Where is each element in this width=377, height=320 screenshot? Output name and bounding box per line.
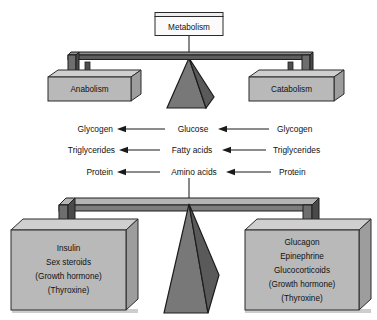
flow-left-arrow-head-2 [117, 169, 126, 175]
metabolism-box-top-strip [155, 13, 223, 17]
flow-left-label-0: Glycogen [78, 124, 114, 134]
catabolism-box: Catabolism [249, 70, 344, 101]
flow-left-arrow-head-1 [119, 147, 128, 153]
flow-right-arrow-head-2 [226, 169, 235, 175]
left-hormone-box: Insulin Sex steroids (Growth hormone) (T… [11, 219, 138, 310]
catabolism-box-top [249, 70, 344, 77]
flow-right-arrow-head-1 [222, 147, 231, 153]
right-hormone-line-4: (Thyroxine) [281, 294, 323, 303]
flow-left-label-2: Protein [86, 167, 113, 177]
left-hormone-line-1: Sex steroids [46, 258, 91, 267]
left-hormone-line-0: Insulin [57, 244, 81, 253]
flow-left-arrow-head-0 [117, 126, 126, 132]
right-hormone-box: Glucagon Epinephrine Glucocorticoids (Gr… [245, 219, 371, 310]
top-fulcrum-pyramid [167, 58, 214, 108]
bottom-beam-front-face [59, 205, 312, 211]
metabolism-balance-diagram: Metabolism [0, 0, 377, 320]
flow-row-glucose: Glycogen Glucose Glycogen [78, 124, 313, 134]
left-hormone-line-3: (Thyroxine) [48, 286, 90, 295]
flow-center-label-0: Glucose [178, 124, 209, 134]
metabolism-box: Metabolism [155, 13, 223, 36]
right-hormone-line-0: Glucagon [284, 238, 319, 247]
right-hormone-line-3: (Growth hormone) [269, 280, 336, 289]
top-beam-front-face [68, 55, 310, 60]
left-hormone-box-side [126, 219, 138, 310]
flow-center-label-1: Fatty acids [172, 145, 213, 155]
flow-right-label-2: Protein [279, 167, 306, 177]
left-hormone-box-face [11, 230, 126, 310]
diagram-canvas: Metabolism [0, 0, 377, 320]
left-hormone-line-2: (Growth hormone) [35, 272, 102, 281]
anabolism-box: Anabolism [48, 70, 141, 101]
right-hormone-box-side [359, 219, 371, 310]
right-hormone-box-top [245, 219, 371, 230]
flow-right-arrow-head-0 [218, 126, 227, 132]
catabolism-box-label: Catabolism [271, 85, 312, 94]
flow-right-label-0: Glycogen [277, 124, 313, 134]
left-hormone-box-top [11, 219, 138, 230]
right-hormone-line-1: Epinephrine [280, 252, 324, 261]
bottom-fulcrum-pyramid [164, 204, 219, 313]
anabolism-box-label: Anabolism [70, 85, 108, 94]
flow-row-fatty-acids: Triglycerides Fatty acids Triglycerides [68, 145, 320, 155]
right-hormone-line-2: Glucocorticoids [274, 266, 330, 275]
metabolism-box-label: Metabolism [168, 23, 210, 32]
flow-row-amino-acids: Protein Amino acids Protein [86, 167, 305, 177]
flow-left-label-1: Triglycerides [68, 145, 115, 155]
anabolism-box-top [48, 70, 141, 77]
flow-right-label-1: Triglycerides [273, 145, 320, 155]
flow-center-label-2: Amino acids [171, 167, 217, 177]
